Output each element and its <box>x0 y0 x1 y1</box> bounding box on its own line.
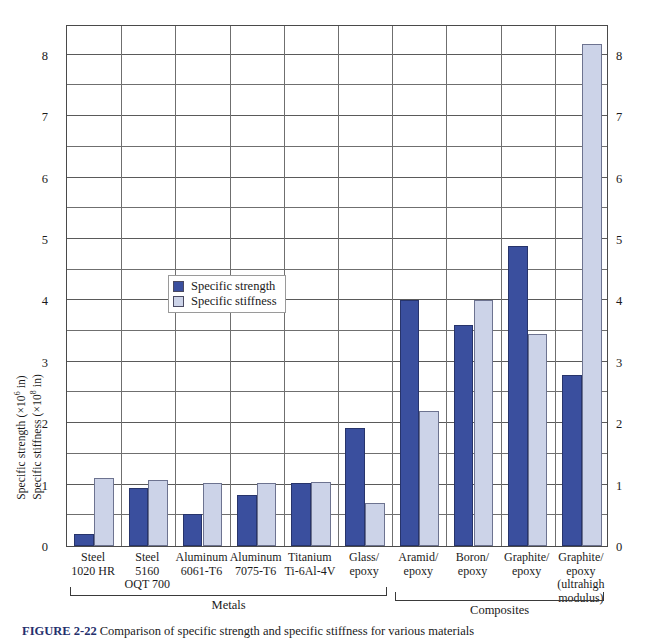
y-axis-tick-left-2: 2 <box>22 418 48 431</box>
x-axis-label-1: Steel5160OQT 700 <box>116 551 178 592</box>
y-axis-tick-right-5: 5 <box>616 234 642 247</box>
y-axis-tick-left-6: 6 <box>22 173 48 186</box>
x-axis-label-line: Titanium <box>279 551 341 565</box>
group-label-metals: Metals <box>70 598 387 613</box>
legend-label-stiffness: Specific stiffness <box>191 294 277 309</box>
x-axis-label-line: Aramid/ <box>387 551 449 565</box>
y-axis-tick-right-1: 1 <box>616 480 642 493</box>
x-axis-label-line: 6061-T6 <box>170 565 232 579</box>
x-axis-label-line: Aluminum <box>225 551 287 565</box>
bar-strength <box>345 428 365 546</box>
y-axis-tick-right-0: 0 <box>616 541 642 554</box>
bar-stiffness <box>582 44 602 546</box>
x-axis-label-line: Graphite/ <box>496 551 558 565</box>
bar-strength <box>562 375 582 546</box>
legend-item-specific-stiffness: Specific stiffness <box>173 294 277 309</box>
plot-area <box>66 25 608 547</box>
y-axis-tick-left-3: 3 <box>22 357 48 370</box>
bar-stiffness <box>311 482 331 546</box>
x-axis-label-line: 7075-T6 <box>225 565 287 579</box>
group-bracket-composites <box>395 592 604 601</box>
x-axis-label-line: epoxy <box>496 565 558 579</box>
bar-stiffness <box>257 483 277 546</box>
y-axis-tick-left-7: 7 <box>22 111 48 124</box>
x-axis-label-3: Aluminum7075-T6 <box>225 551 287 578</box>
x-axis-label-line: 5160 <box>116 565 178 579</box>
bar-strength <box>129 488 149 546</box>
x-axis-label-2: Aluminum6061-T6 <box>170 551 232 578</box>
bar-stiffness <box>528 334 548 546</box>
x-axis-label-line: epoxy <box>387 565 449 579</box>
x-axis-label-7: Boron/epoxy <box>441 551 503 578</box>
y-axis-tick-right-6: 6 <box>616 173 642 186</box>
x-axis-label-line: (ultrahigh <box>550 578 612 592</box>
bar-strength <box>454 325 474 546</box>
group-label-composites: Composites <box>395 603 604 618</box>
bar-strength <box>183 514 203 546</box>
x-axis-label-line: Boron/ <box>441 551 503 565</box>
y-axis-tick-left-8: 8 <box>22 50 48 63</box>
x-axis-label-line: Aluminum <box>170 551 232 565</box>
bar-strength <box>291 483 311 546</box>
y-axis-tick-left-5: 5 <box>22 234 48 247</box>
x-axis-label-line: 1020 HR <box>62 565 124 579</box>
bar-strength <box>74 534 94 546</box>
bar-series-container <box>67 26 607 546</box>
bar-strength <box>508 246 528 546</box>
group-bracket-metals <box>70 587 387 596</box>
bar-strength <box>237 495 257 546</box>
x-axis-label-6: Aramid/epoxy <box>387 551 449 578</box>
y-axis-tick-right-4: 4 <box>616 295 642 308</box>
x-axis-label-line: epoxy <box>333 565 395 579</box>
bar-stiffness <box>94 478 114 546</box>
x-axis-label-8: Graphite/epoxy <box>496 551 558 578</box>
x-axis-label-line: Graphite/ <box>550 551 612 565</box>
y-axis-tick-left-4: 4 <box>22 295 48 308</box>
x-axis-label-line: epoxy <box>550 565 612 579</box>
bar-stiffness <box>474 300 494 546</box>
x-axis-label-4: TitaniumTi-6Al-4V <box>279 551 341 578</box>
x-axis-label-line: epoxy <box>441 565 503 579</box>
bar-stiffness <box>148 480 168 546</box>
figure-caption-text: Comparison of specific strength and spec… <box>97 624 474 638</box>
legend-swatch-stiffness-icon <box>173 296 184 307</box>
bar-strength <box>400 300 420 546</box>
x-axis-label-line: Steel <box>116 551 178 565</box>
y-axis-tick-right-8: 8 <box>616 50 642 63</box>
y-axis-tick-right-3: 3 <box>616 357 642 370</box>
x-axis-label-0: Steel1020 HR <box>62 551 124 578</box>
legend-swatch-strength-icon <box>173 281 184 292</box>
chart-legend: Specific strength Specific stiffness <box>168 275 286 313</box>
y-axis-tick-left-0: 0 <box>22 541 48 554</box>
bar-stiffness <box>365 503 385 546</box>
legend-item-specific-strength: Specific strength <box>173 279 277 294</box>
y-axis-tick-right-7: 7 <box>616 111 642 124</box>
legend-label-strength: Specific strength <box>191 279 275 294</box>
y-axis-tick-left-1: 1 <box>22 480 48 493</box>
bar-stiffness <box>203 483 223 546</box>
y-axis-tick-right-2: 2 <box>616 418 642 431</box>
x-axis-label-5: Glass/epoxy <box>333 551 395 578</box>
x-axis-label-line: Ti-6Al-4V <box>279 565 341 579</box>
bar-stiffness <box>419 411 439 546</box>
x-axis-label-line: Glass/ <box>333 551 395 565</box>
y-axis-title: Specific strength (×106 in) Specific sti… <box>14 330 54 500</box>
figure-number: FIGURE 2-22 <box>22 624 97 638</box>
figure-caption: FIGURE 2-22 Comparison of specific stren… <box>22 624 642 639</box>
x-axis-label-line: Steel <box>62 551 124 565</box>
